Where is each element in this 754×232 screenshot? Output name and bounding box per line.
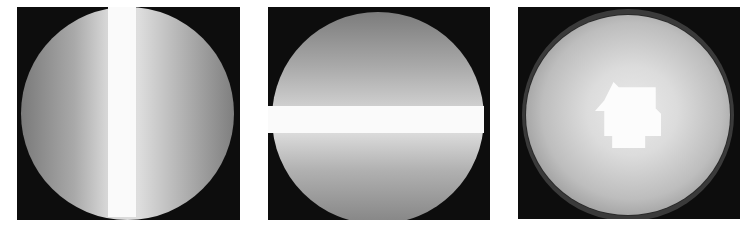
horizontal-highlight-band xyxy=(268,106,484,133)
panel-specular-sphere xyxy=(518,7,740,219)
vertical-highlight-band xyxy=(108,7,136,217)
panel-vertical-band-sphere xyxy=(17,7,240,220)
panel-horizontal-band-sphere xyxy=(268,7,490,220)
